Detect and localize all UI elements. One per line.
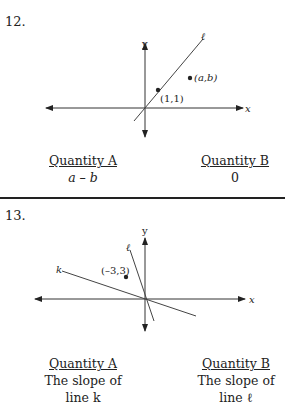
quantity-b-heading: Quantity B [190, 152, 280, 169]
svg-text:y: y [141, 38, 148, 49]
coordinate-plane-12: y x ℓ (1,1) (a,b) [46, 31, 251, 137]
coordinate-plane-13: y x k ℓ (–3,3) [35, 225, 255, 331]
quantity-b-heading: Quantity B [186, 355, 285, 372]
quantity-a-line1: The slope of [33, 372, 133, 389]
svg-text:ℓ: ℓ [126, 242, 130, 253]
problem-13-number: 13. [5, 208, 26, 223]
svg-text:(1,1): (1,1) [160, 93, 184, 104]
quantity-b-value: 0 [190, 169, 280, 186]
svg-text:y: y [141, 225, 148, 236]
quantity-a-12: Quantity A a – b [38, 152, 128, 186]
quantity-b-line2: line ℓ [186, 389, 285, 406]
svg-text:(a,b): (a,b) [194, 72, 217, 83]
line-k [62, 271, 196, 316]
point-a-b [188, 76, 192, 80]
divider [0, 197, 285, 199]
quantity-b-12: Quantity B 0 [190, 152, 280, 186]
quantity-a-heading: Quantity A [38, 152, 128, 169]
svg-text:x: x [245, 103, 251, 114]
svg-text:x: x [249, 294, 255, 305]
quantity-a-line2: line k [33, 389, 133, 406]
diagrams: y x ℓ (1,1) (a,b) y x k ℓ (–3,3) [0, 0, 285, 406]
line-l [134, 39, 203, 121]
svg-text:ℓ: ℓ [201, 31, 205, 42]
line-l [130, 250, 154, 321]
quantity-a-value: a – b [38, 169, 128, 186]
svg-text:k: k [56, 264, 62, 275]
svg-text:(–3,3): (–3,3) [101, 265, 130, 276]
quantity-a-13: Quantity A The slope of line k [33, 355, 133, 406]
quantity-b-line1: The slope of [186, 372, 285, 389]
point-1-1 [156, 88, 160, 92]
quantity-a-heading: Quantity A [33, 355, 133, 372]
quantity-b-13: Quantity B The slope of line ℓ [186, 355, 285, 406]
